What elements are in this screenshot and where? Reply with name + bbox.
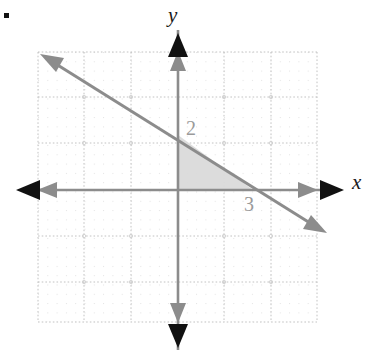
x-intercept-label: 3 [244,194,254,214]
y-axis-arrow-down-outer [168,324,188,348]
x-axis-arrow-right-outer [320,180,344,200]
x-axis-label: x [352,172,361,193]
coordinate-plane-svg [0,0,377,361]
y-axis-label: y [168,5,177,26]
y-axis-arrow-up-outer [168,33,188,57]
y-intercept-label: 2 [186,118,196,138]
x-axis-arrow-left-outer [16,180,40,200]
graph-figure: y x 2 3 [0,0,377,361]
